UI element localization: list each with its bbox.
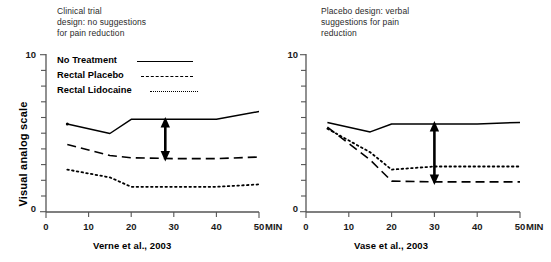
y-axis-ticks-right	[300, 55, 306, 212]
legend-left: No Treatment Rectal Placebo Rectal Lidoc…	[57, 55, 207, 101]
x-tick-label-20-left: 20	[118, 221, 144, 232]
legend-label-no-treatment: No Treatment	[57, 55, 117, 65]
x-tick-label-30-left: 30	[161, 221, 187, 232]
panel-caption-right: Vase et al., 2003	[354, 240, 428, 251]
legend-swatch-dashed	[141, 76, 193, 79]
x-tick-label-10-right: 10	[336, 221, 362, 232]
x-tick-label-0-left: 0	[33, 221, 59, 232]
series-line-no-treatment-right	[327, 122, 520, 131]
difference-arrow-left	[161, 117, 170, 162]
series-line-rectal-lidocaine-left	[67, 170, 259, 187]
panel-caption-left: Verne et al., 2003	[93, 240, 171, 251]
x-tick-label-0-right: 0	[293, 221, 319, 232]
x-tick-label-30-right: 30	[421, 221, 447, 232]
x-tick-label-20-right: 20	[379, 221, 405, 232]
legend-label-rectal-lidocaine: Rectal Lidocaine	[57, 85, 132, 95]
chart-panel-left: Clinical trial design: no suggestions fo…	[0, 0, 275, 262]
x-tick-label-10-left: 10	[76, 221, 102, 232]
difference-arrow-right	[430, 121, 439, 185]
x-tick-label-40-left: 40	[203, 221, 229, 232]
legend-label-rectal-placebo: Rectal Placebo	[57, 70, 124, 80]
chart-panel-right: Placebo design: verbal suggestions for p…	[276, 0, 551, 262]
series-line-rectal-placebo-right	[327, 127, 520, 182]
series-marker-no-treatment-left	[66, 123, 69, 126]
x-axis-unit-right: MIN	[526, 221, 543, 232]
figure-root: Clinical trial design: no suggestions fo…	[0, 0, 551, 262]
x-axis-ticks-left	[46, 212, 259, 218]
y-axis-ticks-left	[40, 55, 46, 212]
legend-swatch-dotted	[150, 91, 198, 94]
x-tick-label-40-right: 40	[464, 221, 490, 232]
x-axis-ticks-right	[306, 212, 520, 218]
legend-swatch-solid	[137, 61, 193, 64]
